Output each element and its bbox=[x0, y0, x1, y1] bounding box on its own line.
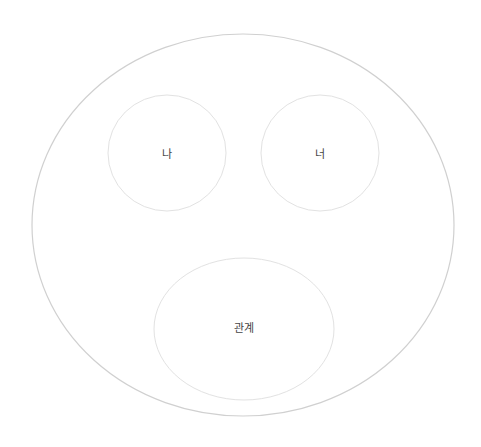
label-you: 너 bbox=[315, 145, 325, 161]
label-relationship: 관계 bbox=[234, 319, 254, 335]
outer-circle bbox=[32, 34, 454, 416]
diagram-canvas bbox=[0, 0, 481, 447]
label-me: 나 bbox=[162, 145, 172, 161]
